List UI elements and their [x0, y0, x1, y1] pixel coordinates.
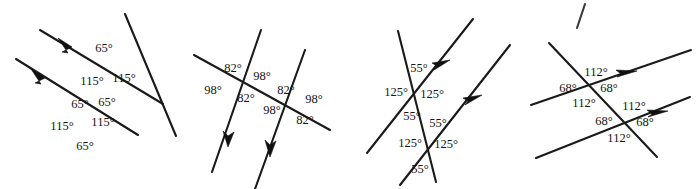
- fig4-arrowhead-upper: [616, 70, 637, 77]
- fig4-label-68-b: 68°: [600, 81, 618, 95]
- fig1-label-65-b: 65°: [71, 97, 89, 111]
- fig3-label-125-a: 125°: [384, 85, 408, 99]
- fig2-label-98-d: 98°: [263, 103, 281, 117]
- fig1-label-115-c: 115°: [50, 119, 73, 133]
- fig3-arrowhead-lower: [463, 95, 482, 105]
- fig2-label-82-c: 82°: [277, 83, 295, 97]
- fig4-label-112-c: 112°: [622, 99, 645, 113]
- fig4-label-112-c2: 112°: [607, 131, 630, 145]
- fig3-label-125-c: 125°: [398, 136, 422, 150]
- fig1-arrowhead-upper: [58, 38, 72, 53]
- fig3-label-55-a: 55°: [410, 61, 428, 75]
- fig3-parallel-line-upper: [367, 19, 473, 153]
- angle-labels-layer: 65° 115° 115° 65° 65° 115° 115° 65° 82° …: [50, 41, 653, 176]
- fig3-label-125-b: 125°: [420, 87, 444, 101]
- fig4-label-112-b: 112°: [572, 96, 595, 110]
- fig4-label-68-d: 68°: [636, 115, 654, 129]
- fig4-label-112-a: 112°: [584, 65, 607, 79]
- figure-2: [194, 30, 330, 189]
- fig2-arrowhead-left: [223, 131, 234, 147]
- fig1-label-115-d: 115°: [91, 115, 114, 129]
- fig2-label-98-c: 98°: [305, 92, 323, 106]
- fig1-arrowhead-lower: [31, 69, 45, 84]
- fig4-parallel-line-upper: [531, 50, 691, 105]
- fig1-label-65-c: 65°: [98, 95, 116, 109]
- fig2-label-82-a: 82°: [224, 61, 242, 75]
- fig4-parallel-line-lower: [536, 97, 690, 158]
- fig2-label-82-d: 82°: [296, 113, 314, 127]
- fig2-label-98-b: 98°: [204, 83, 222, 97]
- figure-3: [367, 19, 510, 185]
- diagram-canvas: 65° 115° 115° 65° 65° 115° 115° 65° 82° …: [0, 0, 699, 189]
- fig1-label-115-b: 115°: [112, 71, 135, 85]
- fig3-label-55-d: 55°: [411, 162, 429, 176]
- fig1-label-65-a: 65°: [95, 41, 113, 55]
- fig4-label-68-a: 68°: [559, 81, 577, 95]
- fig1-label-115-a: 115°: [80, 74, 103, 88]
- fig4-stray-mark: [577, 4, 585, 28]
- geometry-figures-svg: 65° 115° 115° 65° 65° 115° 115° 65° 82° …: [0, 0, 699, 189]
- fig2-label-82-b: 82°: [237, 91, 255, 105]
- fig1-label-65-d: 65°: [76, 139, 94, 153]
- fig3-label-55-b: 55°: [403, 109, 421, 123]
- fig4-label-68-c: 68°: [595, 114, 613, 128]
- fig3-label-55-c: 55°: [429, 116, 447, 130]
- fig2-label-98-a: 98°: [253, 69, 271, 83]
- fig3-label-125-d: 125°: [434, 137, 458, 151]
